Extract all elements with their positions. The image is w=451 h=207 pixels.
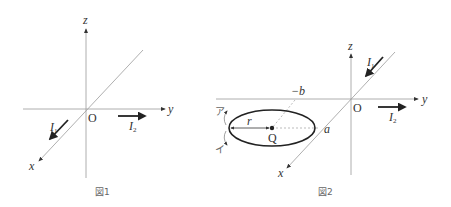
figure-1: z y x O I1 I2 図1 xyxy=(23,13,174,197)
current-i2-label: I2 xyxy=(388,110,397,125)
current-i1-label: I1 xyxy=(49,120,58,135)
x-axis xyxy=(39,50,143,161)
current-i1-label: I1 xyxy=(366,55,375,70)
z-axis-label: z xyxy=(82,13,88,27)
y-axis-label: y xyxy=(421,92,428,106)
x-axis-label: x xyxy=(28,159,35,173)
x-axis xyxy=(287,52,395,168)
rotation-arrow-i xyxy=(224,131,227,145)
origin-label: O xyxy=(353,101,362,115)
rotation-label-a: ア xyxy=(215,106,225,117)
a-label: a xyxy=(324,122,330,136)
point-q-dot xyxy=(270,126,274,130)
figure-2-caption: 図2 xyxy=(318,187,333,197)
figure-2: z y x O I1 I2 −b a r Q ア イ 図2 xyxy=(215,39,428,197)
rotation-label-i: イ xyxy=(215,144,225,155)
z-axis-label: z xyxy=(347,39,353,53)
current-i2-label: I2 xyxy=(128,119,137,134)
y-axis-label: y xyxy=(167,102,174,116)
diagram-canvas: z y x O I1 I2 図1 z y x O I1 I2 xyxy=(0,0,451,207)
origin-label: O xyxy=(88,111,97,125)
point-q-label: Q xyxy=(268,131,277,145)
neg-b-label: −b xyxy=(291,84,305,98)
dashed-line-b-to-q xyxy=(272,100,295,128)
radius-label: r xyxy=(247,114,252,128)
figure-1-caption: 図1 xyxy=(95,187,110,197)
x-axis-label: x xyxy=(277,166,284,180)
